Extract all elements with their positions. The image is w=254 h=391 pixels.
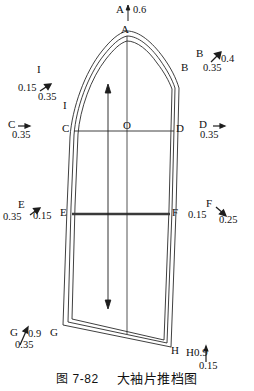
a-vertical-arrow-icon <box>126 5 130 21</box>
annotation-e-point: E <box>18 199 25 210</box>
figure-caption: 图 7-82 大袖片推档图 <box>0 368 254 387</box>
vertex-label-e: E <box>60 207 67 218</box>
annotation-g-point: G <box>10 327 18 338</box>
vertex-label-b: B <box>181 62 188 73</box>
annotation-b-value-vertical: 0.4 <box>221 54 234 65</box>
hem-base <box>68 322 167 343</box>
figure-root: A 0.6 A B 0.4 0.35 B I 0.15 0.35 I C 0.3… <box>0 0 254 391</box>
annotation-i-value-below: 0.35 <box>38 92 56 103</box>
vertex-label-o: O <box>123 120 131 131</box>
b-diagonal-arrow-icon <box>211 52 221 62</box>
annotation-i-point: I <box>37 64 41 75</box>
figure-caption-title: 大袖片推档图 <box>117 371 198 386</box>
grain-arrow-head-down <box>105 300 111 309</box>
grain-line-arrow <box>105 84 111 309</box>
annotation-i-value-left: 0.15 <box>18 83 36 94</box>
vertex-label-a: A <box>121 24 129 35</box>
i-diagonal-arrow-icon <box>40 84 51 91</box>
annotation-b-point: B <box>196 48 203 59</box>
hem-lines <box>63 319 171 347</box>
annotation-d-value: 0.35 <box>200 130 218 141</box>
annotation-c-value: 0.35 <box>12 130 30 141</box>
vertex-label-g: G <box>50 327 58 338</box>
annotation-f-value-right: 0.25 <box>219 215 237 226</box>
vertex-label-c: C <box>62 123 69 134</box>
annotation-b-value-horizontal: 0.35 <box>203 63 221 74</box>
annotation-g-value-horizontal: 0.35 <box>15 340 33 351</box>
d-horizontal-arrow-icon <box>213 124 225 128</box>
vertex-label-d: D <box>176 123 184 134</box>
annotation-a-point: A <box>116 4 124 15</box>
annotation-e-value-left: 0.35 <box>3 212 21 223</box>
hem-outer <box>63 325 171 347</box>
vertex-label-h: H <box>171 345 179 356</box>
annotation-e-value-right: 0.15 <box>33 211 51 222</box>
annotation-h-value: H0.9 <box>186 347 208 358</box>
annotation-g-value-vertical: 0.9 <box>28 329 41 340</box>
c-horizontal-arrow-icon <box>18 124 30 128</box>
grain-arrow-head-up <box>105 84 111 93</box>
vertex-label-i: I <box>63 100 67 111</box>
annotation-f-point: F <box>206 198 212 209</box>
figure-caption-number: 图 7-82 <box>56 372 98 386</box>
vertex-label-f: F <box>172 207 178 218</box>
annotation-a-value: 0.6 <box>133 5 146 16</box>
front-seam-lines <box>63 134 78 325</box>
annotation-f-value-left: 0.15 <box>188 210 206 221</box>
